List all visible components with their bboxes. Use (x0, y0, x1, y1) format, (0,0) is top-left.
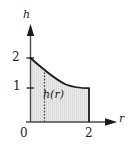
h-axis-tick-label-2: 2 (12, 51, 20, 63)
r-axis-arrowhead (105, 118, 117, 125)
r-axis-label: r (119, 113, 124, 124)
h-axis-label: h (23, 9, 30, 20)
r-axis-tick-label-0: 0 (20, 127, 28, 139)
h-axis-arrowhead (27, 24, 34, 36)
h-axis-tick-label-1: 1 (13, 80, 21, 92)
r-axis-tick-label-2: 2 (85, 127, 93, 139)
height-profile-figure: h r 2 1 0 2 h(r) (0, 0, 130, 149)
h-of-r-annotation-label: h(r) (43, 89, 64, 100)
